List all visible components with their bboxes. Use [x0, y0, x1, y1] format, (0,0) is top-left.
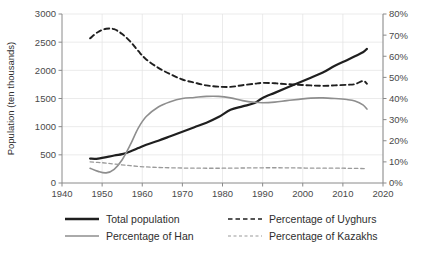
y2-tick-label: 20%: [389, 135, 409, 146]
y2-tick-label: 60%: [389, 51, 409, 62]
x-tick-label: 1940: [51, 188, 72, 199]
y2-axis-ticks-group: 0%10%20%30%40%50%60%70%80%: [383, 8, 409, 188]
y2-tick-label: 10%: [389, 156, 409, 167]
series-line-percentage-of-kazakhs: [90, 162, 367, 169]
y2-tick-label: 30%: [389, 114, 409, 125]
y-tick-label: 2500: [35, 37, 56, 48]
y2-tick-label: 80%: [389, 8, 409, 19]
y-tick-label: 0: [51, 177, 56, 188]
legend-label: Percentage of Han: [106, 230, 194, 242]
x-tick-label: 2010: [332, 188, 353, 199]
x-tick-label: 1960: [132, 188, 153, 199]
x-tick-label: 2000: [292, 188, 313, 199]
legend-label: Percentage of Uyghurs: [269, 213, 376, 225]
y2-tick-label: 0%: [389, 177, 403, 188]
y-axis-title-group: Population (ten thousands): [5, 42, 16, 156]
x-tick-label: 1980: [212, 188, 233, 199]
y-axis-ticks-group: 050010001500200025003000: [35, 8, 62, 188]
x-tick-label: 1950: [92, 188, 113, 199]
x-axis-ticks-group: 194019501960197019801990200020102020: [51, 183, 393, 199]
x-tick-label: 1970: [172, 188, 193, 199]
legend-label: Percentage of Kazakhs: [269, 230, 378, 242]
y-axis-title: Population (ten thousands): [5, 42, 16, 156]
y-tick-label: 1500: [35, 93, 56, 104]
population-ethnicity-line-chart: 050010001500200025003000 0%10%20%30%40%5…: [0, 0, 428, 256]
x-tick-label: 1990: [252, 188, 273, 199]
y-tick-label: 3000: [35, 8, 56, 19]
legend-label: Total population: [106, 213, 180, 225]
y2-tick-label: 40%: [389, 93, 409, 104]
y2-tick-label: 50%: [389, 72, 409, 83]
x-tick-label: 2020: [372, 188, 393, 199]
y-tick-label: 2000: [35, 65, 56, 76]
series-line-percentage-of-uyghurs: [90, 28, 367, 87]
chart-container: 050010001500200025003000 0%10%20%30%40%5…: [0, 0, 428, 256]
legend-group: Total populationPercentage of UyghursPer…: [65, 213, 378, 242]
y-tick-label: 1000: [35, 121, 56, 132]
series-group: [90, 28, 367, 172]
y2-tick-label: 70%: [389, 30, 409, 41]
y-tick-label: 500: [40, 149, 56, 160]
series-line-percentage-of-han: [90, 96, 367, 173]
